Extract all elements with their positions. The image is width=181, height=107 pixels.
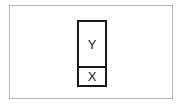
box-y: Y [79,22,105,68]
box-x-label: X [88,69,97,84]
stacked-box: Y X [77,20,107,87]
box-y-label: Y [88,37,97,52]
box-x: X [79,68,105,85]
